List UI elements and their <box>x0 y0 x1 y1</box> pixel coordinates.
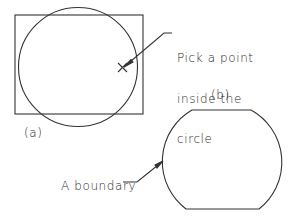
callout-line: A boundary <box>61 180 136 194</box>
callout-line: circle <box>177 133 254 147</box>
callout-line: Pick a point <box>177 52 254 66</box>
circle-shape <box>19 8 138 127</box>
pick-point-x-marker <box>118 63 127 72</box>
figure-a-label: (a) <box>24 127 43 141</box>
boundary-arrowhead <box>155 161 163 168</box>
figure-b-label: (b) <box>211 89 230 103</box>
boundary-callout: A boundary made of a polyline is created <box>61 153 136 218</box>
pick-point-arrowhead <box>124 60 133 68</box>
